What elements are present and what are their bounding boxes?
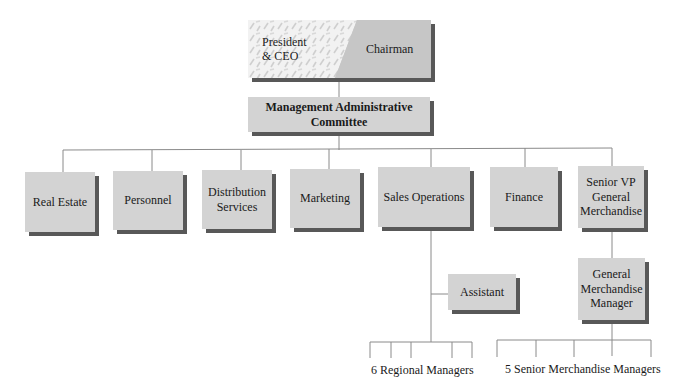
sales-operations-label: Sales Operations <box>384 190 465 204</box>
general-merchandise-manager-box: General Merchandise Manager <box>578 258 645 320</box>
finance-box: Finance <box>490 167 558 227</box>
gmm-line1: General <box>581 267 643 281</box>
president-ceo-label: President & CEO <box>262 35 307 64</box>
personnel-box: Personnel <box>113 171 183 230</box>
assistant-label: Assistant <box>460 285 504 299</box>
distribution-line2: Services <box>208 200 266 214</box>
sales-operations-box: Sales Operations <box>378 167 470 227</box>
real-estate-box: Real Estate <box>25 172 95 232</box>
senior-vp-line3: Merchandise <box>580 204 642 218</box>
real-estate-label: Real Estate <box>33 195 87 209</box>
marketing-box: Marketing <box>290 169 360 228</box>
org-chart: President & CEO Chairman Management Admi… <box>0 0 674 390</box>
distribution-line1: Distribution <box>208 185 266 199</box>
distribution-services-box: Distribution Services <box>202 170 272 229</box>
finance-label: Finance <box>505 190 543 204</box>
chairman-label: Chairman <box>366 42 413 57</box>
regional-managers-label: 6 Regional Managers <box>371 363 474 378</box>
ceo-line: & CEO <box>262 49 307 63</box>
gmm-line2: Merchandise <box>581 282 643 296</box>
committee-line2: Committee <box>266 115 413 129</box>
senior-merchandise-managers-label: 5 Senior Merchandise Managers <box>505 362 661 377</box>
marketing-label: Marketing <box>300 191 350 205</box>
committee-line1: Management Administrative <box>266 100 413 114</box>
management-committee-box: Management Administrative Committee <box>248 97 430 132</box>
personnel-label: Personnel <box>124 193 171 207</box>
assistant-box: Assistant <box>448 274 516 310</box>
president-chairman-box: President & CEO Chairman <box>248 20 431 78</box>
gmm-line3: Manager <box>581 296 643 310</box>
senior-vp-line2: General <box>580 190 642 204</box>
senior-vp-line1: Senior VP <box>580 175 642 189</box>
president-line: President <box>262 35 307 49</box>
senior-vp-box: Senior VP General Merchandise <box>578 166 644 228</box>
